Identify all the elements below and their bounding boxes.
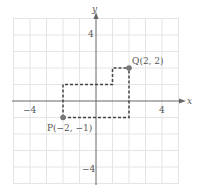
coordinate-plane: y x −4 4 4 −4 Q(2, 2) P(−2, −1) xyxy=(0,0,197,193)
point-q-label: Q(2, 2) xyxy=(132,56,164,66)
y-axis-label: y xyxy=(91,4,98,14)
tick-label-x-4: 4 xyxy=(159,105,165,115)
point-p xyxy=(60,115,66,121)
x-axis-arrow-icon xyxy=(179,99,186,104)
x-axis-label: x xyxy=(187,96,192,106)
tick-label-y-4: 4 xyxy=(88,29,94,39)
tick-label-x-neg4: −4 xyxy=(23,105,37,115)
axes xyxy=(12,16,182,185)
tick-label-y-neg4: −4 xyxy=(82,164,96,174)
point-q xyxy=(126,65,132,71)
point-p-label: P(−2, −1) xyxy=(47,123,92,133)
